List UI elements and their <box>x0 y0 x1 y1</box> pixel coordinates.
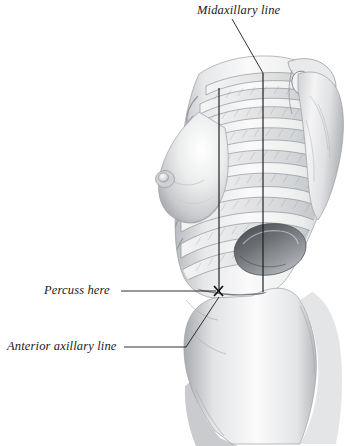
anatomy-illustration <box>0 0 347 446</box>
breast <box>156 112 229 223</box>
figure-container: Midaxillary line Percuss here Anterior a… <box>0 0 347 446</box>
label-anterior-axillary-line: Anterior axillary line <box>7 339 117 354</box>
nipple <box>159 173 169 182</box>
label-midaxillary-line: Midaxillary line <box>197 3 280 18</box>
label-percuss-here: Percuss here <box>44 283 110 298</box>
